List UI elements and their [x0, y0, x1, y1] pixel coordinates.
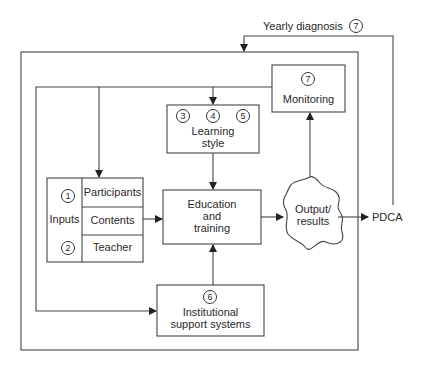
monitoring-label: Monitoring — [272, 93, 345, 106]
institutional-support-node: 6 Institutional support systems — [157, 285, 264, 336]
education-training-node: Education and training — [163, 190, 261, 244]
learning-style-node: 3 4 5 Learning style — [167, 105, 259, 153]
input-participants: Participants — [82, 186, 143, 199]
education-line3: training — [163, 222, 261, 235]
yearly-diagnosis-label: Yearly diagnosis — [263, 20, 343, 33]
output-label-line2: results — [284, 215, 342, 228]
institutional-line2: support systems — [157, 318, 264, 331]
number-4-badge: 4 — [206, 109, 220, 123]
monitoring-node: 7 Monitoring — [272, 65, 345, 112]
step-number-7-badge: 7 — [349, 19, 363, 33]
number-2-badge: 2 — [61, 241, 75, 255]
input-teacher: Teacher — [82, 241, 143, 254]
number-6-badge: 6 — [203, 290, 217, 304]
pdca-label: PDCA — [372, 211, 403, 224]
learning-style-label-line2: style — [167, 137, 259, 150]
inputs-label: Inputs — [47, 213, 82, 226]
number-5-badge: 5 — [236, 109, 250, 123]
yearly-diagnosis-arrow — [244, 36, 393, 205]
monitoring-number-badge: 7 — [301, 72, 315, 86]
number-1-badge: 1 — [61, 189, 75, 203]
input-contents: Contents — [82, 214, 143, 227]
inputs-node: 1 Inputs 2 Participants Contents Teacher — [47, 178, 143, 262]
number-3-badge: 3 — [176, 109, 190, 123]
